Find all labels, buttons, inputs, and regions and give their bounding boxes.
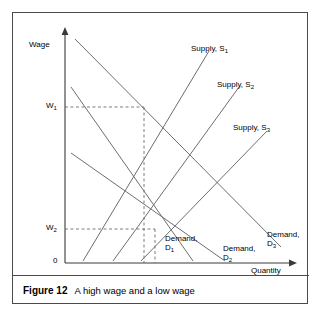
demand-label-d1-subscript: 1 [171,247,174,253]
demand-curve-d3 [75,39,281,247]
demand-label-d3: Demand,D3 [267,230,299,249]
demand-label-d2-symbol: D [223,253,229,262]
demand-label-d3-text: Demand, [267,230,299,239]
demand-label-d1-symbol: D [165,243,171,252]
supply-curve-s1 [83,51,209,261]
demand-label-d2: Demand,D2 [223,244,255,263]
w1-tick-text: W [46,101,54,110]
demand-label-d3-subscript: 3 [273,243,276,249]
supply-label-s2-text: Supply, S [217,80,251,89]
figure-number: Figure 12 [23,285,67,296]
supply-label-s1-subscript: 1 [225,48,228,54]
w2-tick-text: W [46,223,54,232]
w1-tick-subscript: 1 [54,105,57,111]
w1-tick-label: W1 [46,101,57,111]
x-axis-arrowhead [289,260,297,267]
supply-label-s3: Supply, S3 [233,123,270,133]
supply-label-s1-text: Supply, S [191,44,225,53]
y-axis-arrowhead [62,27,69,35]
demand-label-d2-text: Demand, [223,244,255,253]
w2-tick-label: W2 [46,223,57,233]
x-axis-label: Quantity [251,266,281,275]
supply-label-s3-text: Supply, S [233,123,267,132]
figure-caption-text: A high wage and a low wage [74,285,194,296]
supply-label-s2: Supply, S2 [217,80,254,90]
w2-tick-subscript: 2 [54,227,57,233]
demand-label-d1-text: Demand, [165,234,197,243]
demand-label-d3-symbol: D [267,239,273,248]
figure-frame: Wage Quantity 0 W1 W2 Supply, S1 Supply,… [12,12,308,304]
supply-demand-graph [13,13,309,275]
demand-label-d1: Demand,D1 [165,234,197,253]
supply-label-s3-subscript: 3 [267,127,270,133]
demand-label-d2-subscript: 2 [229,257,232,263]
figure-caption: Figure 12 A high wage and a low wage [13,276,309,304]
plot-area: Wage Quantity 0 W1 W2 Supply, S1 Supply,… [13,13,309,275]
supply-label-s2-subscript: 2 [251,84,254,90]
y-axis-label: Wage [29,40,50,49]
origin-label: 0 [53,256,57,265]
demand-curve-d2 [71,153,225,261]
supply-label-s1: Supply, S1 [191,44,228,54]
